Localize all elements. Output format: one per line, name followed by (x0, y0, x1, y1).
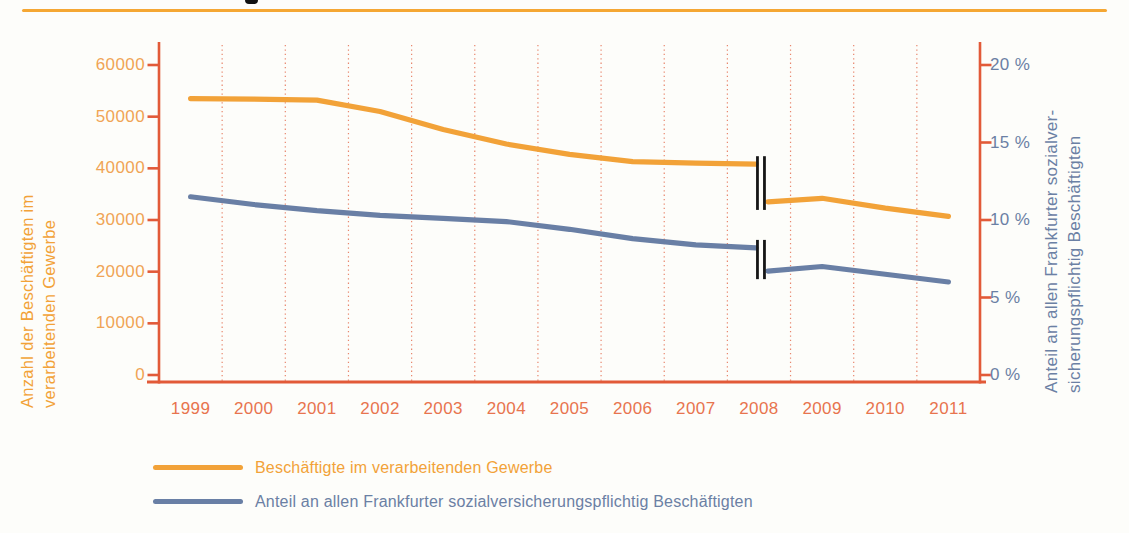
legend-label: Beschäftigte im verarbeitenden Gewerbe (255, 457, 553, 479)
left-axis-tick-label: 0 (85, 365, 145, 385)
left-axis-tick-label: 10000 (85, 313, 145, 333)
year-label-2001: 2001 (285, 398, 349, 420)
data-series (191, 99, 949, 282)
year-label-1999: 1999 (159, 398, 223, 420)
left-axis-tick-label: 20000 (85, 262, 145, 282)
year-label-2011: 2011 (916, 398, 980, 420)
left-axis-tick-label: 30000 (85, 210, 145, 230)
year-label-2006: 2006 (601, 398, 665, 420)
right-axis-tick-label: 5 % (990, 288, 1054, 308)
year-label-2009: 2009 (790, 398, 854, 420)
year-label-2007: 2007 (664, 398, 728, 420)
left-axis-tick-label: 60000 (85, 55, 145, 75)
legend-label: Anteil an allen Frankfurter sozialversic… (255, 491, 753, 513)
year-label-2008: 2008 (727, 398, 791, 420)
left-axis-title-line2: verarbeitenden Gewerbe (38, 118, 60, 408)
year-label-2004: 2004 (474, 398, 538, 420)
right-axis-title-line2: sicherungspflichtig Beschäftigten (1063, 63, 1086, 393)
legend-swatch-blue (153, 499, 243, 504)
year-label-2000: 2000 (222, 398, 286, 420)
left-axis-tick-label: 50000 (85, 107, 145, 127)
series-break-markers (757, 156, 764, 279)
axes (147, 42, 992, 384)
legend-item-anteil: Anteil an allen Frankfurter sozialversic… (153, 491, 953, 513)
right-axis-tick-label: 10 % (990, 210, 1054, 230)
left-axis-tick-label: 40000 (85, 158, 145, 178)
legend-item-beschaeftigte: Beschäftigte im verarbeitenden Gewerbe (153, 457, 853, 479)
left-axis-title: Anzahl der Beschäftigten im verarbeitend… (16, 118, 60, 408)
left-axis-title-line1: Anzahl der Beschäftigten im (16, 118, 38, 408)
right-axis-tick-label: 0 % (990, 365, 1054, 385)
legend-swatch-orange (153, 465, 243, 470)
right-axis-tick-label: 15 % (990, 133, 1054, 153)
year-label-2002: 2002 (348, 398, 412, 420)
year-label-2003: 2003 (411, 398, 475, 420)
line-chart (0, 0, 1129, 533)
right-axis-tick-label: 20 % (990, 55, 1054, 75)
year-label-2005: 2005 (538, 398, 602, 420)
year-label-2010: 2010 (853, 398, 917, 420)
